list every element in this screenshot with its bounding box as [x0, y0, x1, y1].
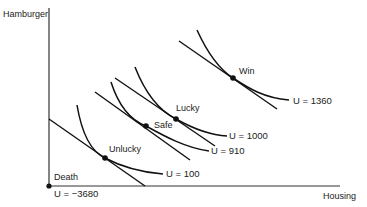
- death-label: Death: [54, 172, 78, 182]
- unlucky-label: Unlucky: [109, 144, 142, 154]
- lucky-label: Lucky: [176, 103, 200, 113]
- death-utility-label: U = −3680: [54, 188, 98, 199]
- lucky-point: [173, 116, 179, 122]
- win-indifference-curve: [197, 30, 289, 100]
- safe-label: Safe: [154, 120, 173, 130]
- unlucky-utility-label: U = 100: [166, 168, 200, 179]
- win-utility-label: U = 1360: [293, 95, 332, 106]
- safe-point: [143, 123, 149, 129]
- safe-indifference-curve: [111, 82, 209, 151]
- unlucky-indifference-curve: [77, 105, 163, 174]
- lucky-utility-label: U = 1000: [229, 130, 268, 141]
- unlucky-point: [102, 155, 108, 161]
- indifference-diagram: Hamburger Housing Death U = −3680 Unluck…: [0, 0, 367, 207]
- safe-utility-label: U = 910: [211, 145, 245, 156]
- y-axis-label: Hamburger: [3, 9, 48, 19]
- death-point: [46, 183, 51, 188]
- x-axis-label: Housing: [323, 191, 356, 201]
- win-point: [230, 75, 236, 81]
- win-label: Win: [239, 66, 255, 76]
